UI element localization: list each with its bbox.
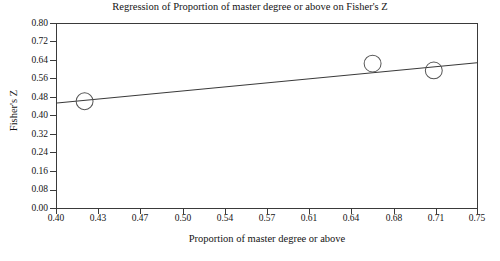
x-tick-label: 0.61 (289, 213, 329, 224)
x-tick-label: 0.71 (416, 213, 456, 224)
x-axis-tick-labels: 0.40 0.43 0.47 0.50 0.54 0.57 0.61 0.64 … (0, 0, 500, 261)
x-tick-label: 0.57 (247, 213, 287, 224)
x-tick-label: 0.64 (331, 213, 371, 224)
x-tick-label: 0.54 (205, 213, 245, 224)
x-tick-label: 0.75 (457, 213, 497, 224)
x-tick-label: 0.50 (163, 213, 203, 224)
chart-figure: Regression of Proportion of master degre… (0, 0, 500, 261)
x-tick-label: 0.68 (374, 213, 414, 224)
x-tick-label: 0.40 (36, 213, 76, 224)
x-tick-label: 0.47 (120, 213, 160, 224)
y-axis-title: Fisher's Z (8, 71, 19, 151)
x-axis-title: Proportion of master degree or above (56, 233, 478, 244)
x-tick-label: 0.43 (78, 213, 118, 224)
